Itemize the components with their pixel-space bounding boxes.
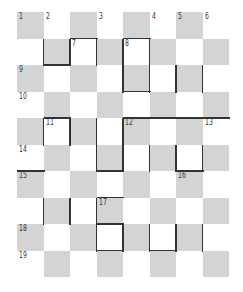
grid-cell[interactable] bbox=[70, 92, 97, 119]
word-boundary-bar bbox=[43, 39, 44, 67]
grid-cell[interactable] bbox=[17, 118, 44, 145]
grid-cell[interactable]: 2 bbox=[44, 12, 71, 39]
grid-cell[interactable]: 8 bbox=[123, 39, 150, 66]
grid-cell[interactable]: 14 bbox=[17, 145, 44, 172]
grid-cell[interactable] bbox=[203, 39, 230, 66]
grid-cell[interactable] bbox=[203, 224, 230, 251]
grid-cell[interactable]: 19 bbox=[17, 251, 44, 278]
grid-cell[interactable]: 12 bbox=[123, 118, 150, 145]
grid-cell[interactable] bbox=[70, 12, 97, 39]
grid-cell[interactable] bbox=[176, 118, 203, 145]
grid-cell[interactable] bbox=[150, 251, 177, 278]
grid-cell[interactable] bbox=[17, 198, 44, 225]
word-boundary-bar bbox=[150, 250, 178, 251]
word-boundary-bar bbox=[202, 65, 203, 93]
word-boundary-bar bbox=[149, 39, 150, 93]
grid-cell[interactable] bbox=[176, 39, 203, 66]
grid-cell[interactable] bbox=[123, 224, 150, 251]
grid-cell[interactable] bbox=[97, 39, 124, 66]
grid-cell[interactable] bbox=[203, 251, 230, 278]
grid-cell[interactable]: 9 bbox=[17, 65, 44, 92]
grid-cell[interactable] bbox=[203, 92, 230, 119]
grid-cell[interactable] bbox=[176, 224, 203, 251]
clue-number: 12 bbox=[125, 119, 133, 127]
word-boundary-bar bbox=[123, 117, 230, 118]
grid-cell[interactable]: 18 bbox=[17, 224, 44, 251]
grid-cell[interactable] bbox=[44, 251, 71, 278]
grid-cell[interactable] bbox=[123, 92, 150, 119]
grid-cell[interactable] bbox=[203, 198, 230, 225]
grid-cell[interactable] bbox=[123, 65, 150, 92]
grid-cell[interactable] bbox=[70, 145, 97, 172]
clue-number: 7 bbox=[72, 40, 76, 48]
grid-cell[interactable] bbox=[150, 65, 177, 92]
grid-cell[interactable] bbox=[97, 145, 124, 172]
grid-cell[interactable] bbox=[123, 145, 150, 172]
grid-cell[interactable] bbox=[150, 198, 177, 225]
grid-cell[interactable] bbox=[176, 145, 203, 172]
grid-cell[interactable] bbox=[150, 92, 177, 119]
grid-cell[interactable] bbox=[176, 65, 203, 92]
word-boundary-bar bbox=[175, 145, 176, 173]
grid-cell[interactable] bbox=[44, 92, 71, 119]
grid-cell[interactable] bbox=[203, 145, 230, 172]
grid-cell[interactable]: 16 bbox=[176, 171, 203, 198]
grid-cell[interactable] bbox=[123, 198, 150, 225]
grid-cell[interactable] bbox=[17, 39, 44, 66]
grid-cell[interactable] bbox=[176, 198, 203, 225]
grid-cell[interactable] bbox=[123, 171, 150, 198]
word-boundary-bar bbox=[69, 39, 70, 67]
grid-cell[interactable] bbox=[70, 65, 97, 92]
grid-cell[interactable] bbox=[97, 65, 124, 92]
grid-cell[interactable] bbox=[97, 251, 124, 278]
grid-cell[interactable] bbox=[97, 224, 124, 251]
grid-cell[interactable] bbox=[150, 171, 177, 198]
grid-cell[interactable] bbox=[176, 251, 203, 278]
grid-cell[interactable] bbox=[44, 224, 71, 251]
grid-cell[interactable]: 17 bbox=[97, 198, 124, 225]
grid-cell[interactable]: 11 bbox=[44, 118, 71, 145]
grid-cell[interactable] bbox=[123, 12, 150, 39]
grid-cell[interactable]: 10 bbox=[17, 92, 44, 119]
grid-cell[interactable] bbox=[70, 118, 97, 145]
grid-cell[interactable] bbox=[44, 171, 71, 198]
grid-cell[interactable] bbox=[150, 39, 177, 66]
grid-cell[interactable] bbox=[70, 198, 97, 225]
grid-cell[interactable] bbox=[97, 118, 124, 145]
grid-cell[interactable]: 4 bbox=[150, 12, 177, 39]
word-boundary-bar bbox=[97, 197, 125, 198]
grid-cell[interactable] bbox=[44, 145, 71, 172]
clue-number: 16 bbox=[178, 172, 186, 180]
grid-cell[interactable] bbox=[70, 171, 97, 198]
grid-cell[interactable]: 6 bbox=[203, 12, 230, 39]
grid-cell[interactable]: 1 bbox=[17, 12, 44, 39]
grid-cell[interactable]: 3 bbox=[97, 12, 124, 39]
grid-cell[interactable] bbox=[44, 198, 71, 225]
clue-number: 4 bbox=[152, 13, 156, 21]
grid-cell[interactable] bbox=[203, 65, 230, 92]
clue-number: 17 bbox=[99, 199, 107, 207]
grid-cell[interactable] bbox=[203, 171, 230, 198]
word-boundary-bar bbox=[97, 223, 125, 224]
grid-cell[interactable] bbox=[150, 224, 177, 251]
grid-cell[interactable]: 13 bbox=[203, 118, 230, 145]
word-boundary-bar bbox=[176, 170, 204, 171]
word-boundary-bar bbox=[44, 117, 72, 118]
clue-number: 9 bbox=[19, 66, 23, 74]
grid-cell[interactable] bbox=[150, 145, 177, 172]
clue-number: 3 bbox=[99, 13, 103, 21]
grid-cell[interactable]: 7 bbox=[70, 39, 97, 66]
clue-number: 19 bbox=[19, 252, 27, 260]
clue-number: 15 bbox=[19, 172, 27, 180]
grid-cell[interactable] bbox=[97, 92, 124, 119]
grid-cell[interactable] bbox=[97, 171, 124, 198]
grid-cell[interactable] bbox=[70, 251, 97, 278]
grid-cell[interactable] bbox=[150, 118, 177, 145]
grid-cell[interactable] bbox=[44, 65, 71, 92]
grid-cell[interactable] bbox=[176, 92, 203, 119]
grid-cell[interactable]: 5 bbox=[176, 12, 203, 39]
grid-cell[interactable] bbox=[70, 224, 97, 251]
grid-cell[interactable]: 15 bbox=[17, 171, 44, 198]
grid-cell[interactable] bbox=[44, 39, 71, 66]
grid-cell[interactable] bbox=[123, 251, 150, 278]
